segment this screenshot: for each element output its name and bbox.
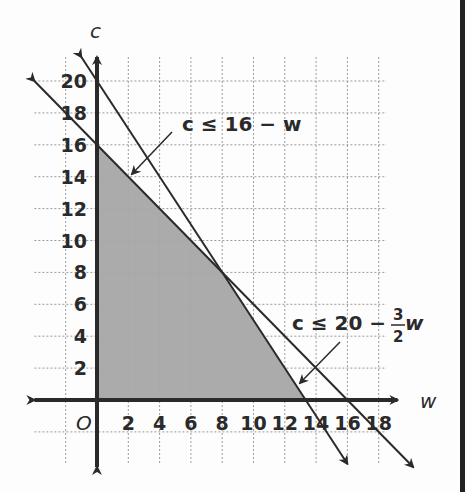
annotation-16-minus-w: c ≤ 16 − w: [182, 112, 302, 136]
annotation-arrow-2: [300, 342, 340, 383]
w-axis-label: w: [420, 389, 437, 413]
c-tick-20: 20: [61, 70, 87, 92]
w-tick-10: 10: [240, 412, 266, 434]
c-tick-18: 18: [61, 102, 87, 124]
w-tick-8: 8: [216, 412, 229, 434]
c-axis-label: c: [90, 19, 101, 43]
c-tick-10: 10: [61, 230, 87, 252]
c-tick-14: 14: [61, 166, 87, 188]
svg-text:c ≤ 20 −: c ≤ 20 −: [292, 311, 386, 335]
c-tick-4: 4: [74, 325, 87, 347]
c-tick-2: 2: [74, 357, 87, 379]
inequality-graph: 24681012141618 2468101214161820 c w O c …: [0, 0, 465, 492]
w-tick-16: 16: [334, 412, 360, 434]
c-tick-12: 12: [61, 198, 87, 220]
w-tick-4: 4: [153, 412, 166, 434]
c-tick-8: 8: [74, 261, 87, 283]
svg-text:3: 3: [393, 306, 403, 324]
w-tick-6: 6: [184, 412, 197, 434]
w-tick-14: 14: [303, 412, 329, 434]
c-axis-tick-labels: 2468101214161820: [61, 70, 87, 379]
w-tick-18: 18: [365, 412, 391, 434]
c-tick-6: 6: [74, 293, 87, 315]
c-tick-16: 16: [61, 134, 87, 156]
annotation-arrow-1: [132, 132, 172, 174]
annotation-20-minus-three-halves-w: c ≤ 20 − 3 2 w: [292, 306, 424, 346]
origin-label: O: [76, 411, 92, 435]
w-tick-12: 12: [272, 412, 298, 434]
w-tick-2: 2: [122, 412, 135, 434]
w-axis-tick-labels: 24681012141618: [122, 412, 392, 434]
page-edge-bar: [460, 0, 465, 492]
svg-text:2: 2: [393, 328, 403, 346]
svg-text:w: w: [405, 311, 424, 335]
feasible-region: [97, 145, 306, 400]
